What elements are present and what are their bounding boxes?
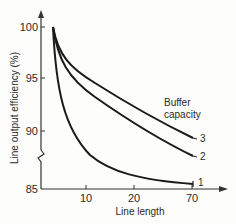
y-axis: 100 95 90 85 Line output efficiency (%) <box>9 10 45 195</box>
series-3-line <box>53 27 193 138</box>
x-tick-10: 10 <box>80 192 92 204</box>
series-labels: 3 2 1 <box>193 133 206 188</box>
y-tick-85: 85 <box>26 183 38 195</box>
x-tick-20: 20 <box>128 192 140 204</box>
y-tick-90: 90 <box>26 125 38 137</box>
legend-title-line1: Buffer <box>164 97 191 108</box>
x-axis-arrow-icon <box>219 186 228 192</box>
series-2-line <box>53 27 193 156</box>
y-axis-arrow-icon <box>38 10 44 18</box>
series-label-3: 3 <box>200 133 206 144</box>
x-axis: 10 20 70 Line length <box>41 185 228 217</box>
y-tick-100: 100 <box>20 21 38 33</box>
chart-canvas: 100 95 90 85 Line output efficiency (%) … <box>0 0 236 224</box>
y-axis-title: Line output efficiency (%) <box>9 52 20 164</box>
series-label-1: 1 <box>198 177 204 188</box>
legend-title-line2: capacity <box>164 109 201 120</box>
series-label-2: 2 <box>200 151 206 162</box>
legend: Buffer capacity <box>164 97 201 120</box>
axis-break-icon <box>38 150 44 189</box>
x-axis-title: Line length <box>116 206 165 217</box>
y-tick-95: 95 <box>26 72 38 84</box>
x-tick-70: 70 <box>186 192 198 204</box>
